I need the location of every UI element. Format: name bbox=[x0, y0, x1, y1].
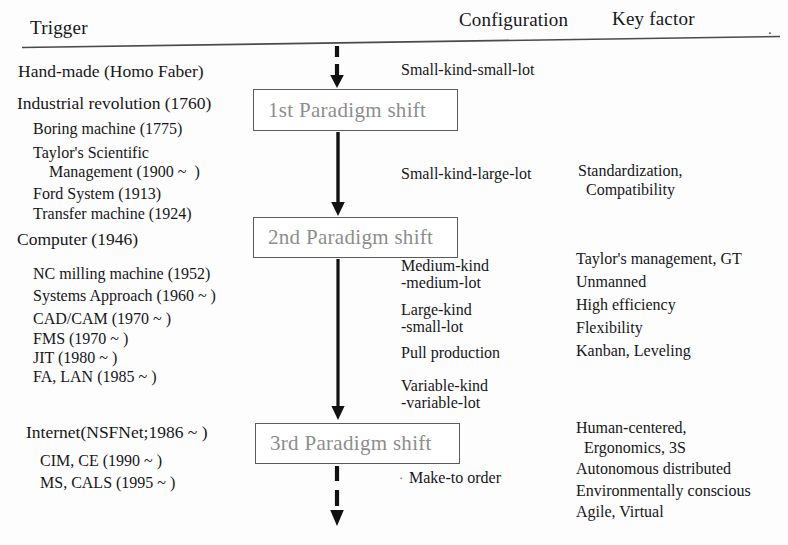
configuration-medium-kind: Medium-kind bbox=[401, 258, 489, 274]
trigger-item-ms-cals: MS, CALS (1995 ~ ) bbox=[40, 475, 175, 491]
paradigm-shift-diagram: Trigger Configuration Key factor . Hand-… bbox=[0, 0, 788, 545]
trigger-item-boring-machine: Boring machine (1775) bbox=[33, 121, 182, 137]
trigger-item-fa-lan: FA, LAN (1985 ~ ) bbox=[33, 369, 156, 385]
trigger-item-cad-cam: CAD/CAM (1970 ~ ) bbox=[33, 311, 171, 327]
configuration-small-kind-small-lot: Small-kind-small-lot bbox=[401, 62, 534, 78]
trigger-item-systems-approach: Systems Approach (1960 ~ ) bbox=[33, 288, 216, 304]
trigger-item-taylor-scientific: Taylor's Scientific bbox=[33, 145, 149, 161]
paradigm-box-2: 2nd Paradigm shift bbox=[253, 217, 458, 258]
paradigm-box-1-label: 1st Paradigm shift bbox=[254, 98, 426, 123]
trigger-item-transfer-machine: Transfer machine (1924) bbox=[33, 206, 191, 222]
header-divider-rule bbox=[22, 36, 778, 49]
trigger-item-nc-milling: NC milling machine (1952) bbox=[33, 266, 210, 282]
key-factor-agile-virtual: Agile, Virtual bbox=[576, 504, 664, 520]
trigger-item-ford-system: Ford System (1913) bbox=[33, 186, 161, 202]
key-factor-compatibility: Compatibility bbox=[578, 182, 675, 198]
configuration-variable-lot: -variable-lot bbox=[401, 395, 480, 411]
trigger-heading-computer: Computer (1946) bbox=[17, 231, 138, 249]
column-header-trigger: Trigger bbox=[30, 18, 88, 37]
paradigm-box-3-label: 3rd Paradigm shift bbox=[256, 431, 432, 456]
first-to-second-arrow bbox=[327, 131, 349, 217]
configuration-variable-kind: Variable-kind bbox=[401, 378, 488, 394]
make-to-order-leading-dot: · bbox=[399, 470, 403, 486]
column-header-configuration: Configuration bbox=[459, 10, 568, 29]
key-factor-human-centered: Human-centered, bbox=[576, 420, 687, 436]
configuration-small-lot: -small-lot bbox=[401, 319, 463, 335]
trigger-item-cim-ce: CIM, CE (1990 ~ ) bbox=[40, 453, 162, 469]
key-factor-standardization: Standardization, bbox=[578, 163, 682, 179]
trigger-heading-industrial-revolution: Industrial revolution (1760) bbox=[17, 95, 211, 113]
paradigm-box-2-label: 2nd Paradigm shift bbox=[254, 225, 433, 250]
key-factor-environmentally-conscious: Environmentally conscious bbox=[576, 483, 751, 499]
key-factor-kanban-leveling: Kanban, Leveling bbox=[576, 343, 691, 359]
trigger-item-jit: JIT (1980 ~ ) bbox=[33, 350, 117, 366]
trigger-heading-internet: Internet(NSFNet;1986 ~ ) bbox=[26, 424, 208, 442]
configuration-medium-lot: -medium-lot bbox=[401, 275, 481, 291]
configuration-pull-production: Pull production bbox=[401, 345, 500, 361]
configuration-small-kind-large-lot: Small-kind-large-lot bbox=[401, 166, 531, 182]
paradigm-box-1: 1st Paradigm shift bbox=[253, 89, 458, 131]
key-factor-autonomous-distributed: Autonomous distributed bbox=[576, 461, 731, 477]
paradigm-box-3: 3rd Paradigm shift bbox=[255, 423, 460, 464]
bottom-dashed-arrow bbox=[326, 464, 348, 536]
trigger-item-taylor-management: Management (1900 ~ ) bbox=[33, 164, 200, 180]
trigger-heading-hand-made: Hand-made (Homo Faber) bbox=[18, 63, 204, 81]
trigger-item-fms: FMS (1970 ~ ) bbox=[33, 331, 128, 347]
top-dashed-arrow bbox=[326, 44, 348, 90]
second-to-third-arrow bbox=[327, 258, 349, 421]
column-header-key-factor: Key factor bbox=[612, 9, 695, 28]
key-factor-ergonomics-3s: Ergonomics, 3S bbox=[576, 440, 686, 456]
key-factor-flexibility: Flexibility bbox=[576, 320, 643, 336]
key-factor-high-efficiency: High efficiency bbox=[576, 297, 676, 313]
key-factor-unmanned: Unmanned bbox=[576, 274, 646, 290]
configuration-make-to-order: Make-to order bbox=[409, 470, 501, 486]
key-factor-taylors-management: Taylor's management, GT bbox=[576, 251, 742, 267]
configuration-large-kind: Large-kind bbox=[401, 302, 472, 318]
